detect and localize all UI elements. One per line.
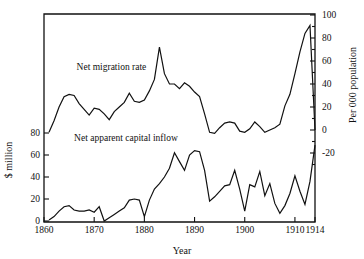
- right-tick-label: -20: [322, 148, 335, 158]
- x-tick-label: 1910: [285, 225, 304, 235]
- annotation-net-apparent-capital-inflow: Net apparent capital inflow: [74, 133, 178, 143]
- left-tick-label: 60: [31, 150, 41, 160]
- migration-capital-inflow-chart: 020406080 -20020406080100 18601870188018…: [0, 0, 364, 259]
- right-tick-label: 80: [322, 33, 332, 43]
- x-tick-label: 1870: [85, 225, 104, 235]
- left-tick-label: 80: [31, 128, 41, 138]
- right-tick-label: 60: [322, 56, 332, 66]
- x-tick-label: 1914: [306, 225, 325, 235]
- x-axis-title: Year: [173, 245, 192, 256]
- chart-background: [0, 0, 364, 259]
- x-tick-label: 1880: [135, 225, 154, 235]
- x-tick-label: 1890: [185, 225, 204, 235]
- x-tick-label: 1860: [35, 225, 54, 235]
- right-tick-label: 0: [322, 125, 327, 135]
- annotation-net-migration-rate: Net migration rate: [77, 62, 147, 72]
- left-tick-label: 40: [31, 172, 41, 182]
- x-tick-label: 1900: [235, 225, 254, 235]
- right-tick-label: 20: [322, 102, 332, 112]
- right-tick-label: 100: [322, 10, 337, 20]
- right-tick-label: 40: [322, 79, 332, 89]
- left-axis-title: $ million: [3, 142, 14, 178]
- right-axis-title: Per 000 population: [347, 47, 358, 123]
- left-tick-label: 20: [31, 194, 41, 204]
- chart-container: 020406080 -20020406080100 18601870188018…: [0, 0, 364, 259]
